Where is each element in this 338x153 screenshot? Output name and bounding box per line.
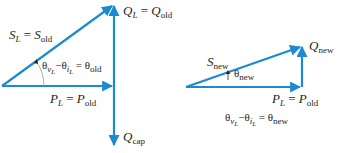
- label-p-new: PL = Pold: [272, 92, 318, 108]
- label-theta-new-eq: θvL−θiL = θnew: [225, 112, 288, 128]
- equals: =: [66, 91, 73, 106]
- q-symbol: Q: [123, 3, 132, 18]
- equals: =: [24, 27, 31, 42]
- theta-rhs-sub: new: [273, 116, 288, 126]
- qcap-subscript: cap: [132, 136, 145, 146]
- l-subsub: L: [252, 120, 256, 128]
- label-q-cap: Qcap: [123, 130, 145, 146]
- label-q-old: QL = Qold: [123, 4, 172, 20]
- label-theta-old: θvL−θiL = θold: [42, 60, 102, 76]
- l-subsub: L: [69, 68, 73, 76]
- label-theta-new: θnew: [234, 68, 254, 82]
- q-new-subscript: new: [318, 45, 333, 55]
- q-rhs: Q: [151, 3, 160, 18]
- equals: =: [259, 111, 265, 123]
- q-new-symbol: Q: [309, 38, 318, 53]
- p-new-rhs-sub: old: [307, 98, 319, 108]
- qcap-symbol: Q: [123, 129, 132, 144]
- phasor-diagram: [0, 0, 338, 153]
- q-subscript: L: [132, 10, 137, 20]
- q-rhs-sub: old: [161, 10, 173, 20]
- s-rhs-sub: old: [41, 34, 53, 44]
- p-symbol: P: [50, 91, 58, 106]
- label-s-new: Snew: [207, 55, 229, 71]
- s-new-subscript: new: [214, 61, 229, 71]
- theta-new-subscript: new: [239, 72, 254, 82]
- s-subscript: L: [16, 34, 21, 44]
- label-s-old: SL = Sold: [9, 28, 52, 44]
- p-new-rhs: P: [299, 91, 307, 106]
- p-rhs: P: [77, 91, 85, 106]
- p-rhs-sub: old: [85, 98, 97, 108]
- label-p-old: PL = Pold: [50, 92, 96, 108]
- label-q-new: Qnew: [309, 39, 333, 55]
- p-new-symbol: P: [272, 91, 280, 106]
- equals: =: [76, 59, 82, 71]
- p-new-subscript: L: [280, 98, 285, 108]
- p-subscript: L: [58, 98, 63, 108]
- theta-rhs-sub: old: [90, 64, 102, 74]
- equals: =: [288, 91, 295, 106]
- equals: =: [141, 3, 148, 18]
